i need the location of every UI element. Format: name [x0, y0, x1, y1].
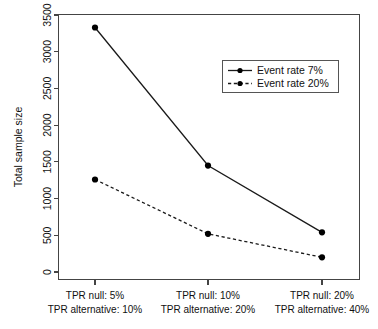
data-point-s2-x2 — [205, 231, 211, 237]
legend-label-1: Event rate 7% — [257, 64, 323, 76]
y-tick-label-3500: 3500 — [41, 3, 53, 27]
x-axis-ticks — [95, 280, 322, 286]
y-tick-label-2000: 2000 — [41, 113, 53, 137]
y-tick-label-500: 500 — [41, 226, 53, 244]
legend-label-2: Event rate 20% — [257, 77, 329, 89]
y-axis-ticks — [54, 15, 59, 272]
legend-marker-dashed — [237, 81, 242, 86]
x-label-3-line1: TPR null: 20% — [290, 290, 354, 301]
x-label-2-line1: TPR null: 10% — [176, 290, 240, 301]
y-tick-label-3000: 3000 — [41, 40, 53, 64]
data-point-s1-x3 — [319, 229, 325, 235]
plot-panel-border — [59, 15, 360, 280]
y-tick-label-0: 0 — [41, 269, 53, 275]
series-line-1 — [95, 27, 322, 232]
data-point-s1-x1 — [92, 24, 98, 30]
line-chart: 0 500 1000 1500 2000 2500 3000 3500 Tota… — [0, 0, 378, 329]
y-tick-label-2500: 2500 — [41, 77, 53, 101]
y-tick-label-1500: 1500 — [41, 150, 53, 174]
y-axis-tick-labels: 0 500 1000 1500 2000 2500 3000 3500 — [41, 3, 53, 275]
legend: Event rate 7% Event rate 20% — [223, 61, 339, 93]
data-point-s1-x2 — [205, 162, 211, 168]
data-point-s2-x3 — [319, 254, 325, 260]
y-axis-title: Total sample size — [12, 107, 24, 188]
data-point-s2-x1 — [92, 176, 98, 182]
x-label-1-line2: TPR alternative: 10% — [48, 304, 143, 315]
data-series-layer — [92, 24, 325, 260]
legend-marker-solid — [237, 68, 242, 73]
y-tick-label-1000: 1000 — [41, 187, 53, 211]
chart-figure: 0 500 1000 1500 2000 2500 3000 3500 Tota… — [0, 0, 378, 329]
x-axis-category-labels: TPR null: 5% TPR alternative: 10% TPR nu… — [48, 290, 370, 315]
x-label-2-line2: TPR alternative: 20% — [161, 304, 256, 315]
x-label-1-line1: TPR null: 5% — [66, 290, 124, 301]
series-line-2 — [95, 179, 322, 257]
x-label-3-line2: TPR alternative: 40% — [275, 304, 370, 315]
